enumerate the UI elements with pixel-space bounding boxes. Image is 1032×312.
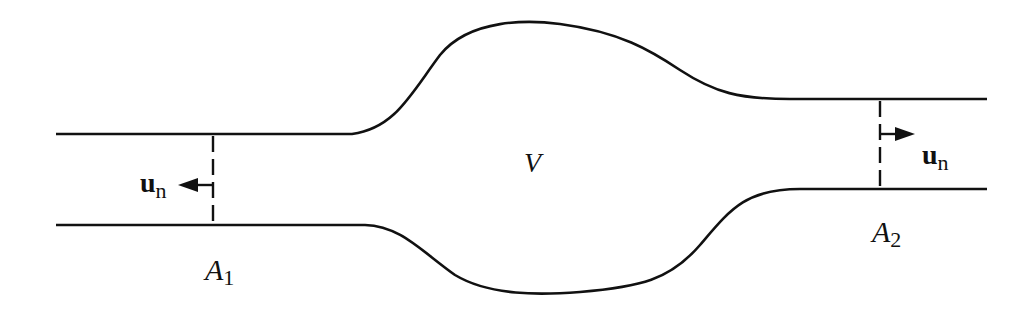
area-outlet-label: A2	[870, 215, 901, 252]
area-outlet-main: A	[870, 215, 891, 248]
lower-wall	[56, 189, 987, 294]
un-right-sub: n	[938, 150, 949, 175]
area-inlet-main: A	[203, 253, 224, 286]
un-left-sub: n	[156, 178, 167, 203]
arrow-right-icon	[880, 127, 915, 141]
un-left-main: u	[140, 167, 156, 198]
area-inlet-label: A1	[203, 253, 234, 290]
area-outlet-sub: 2	[890, 227, 901, 252]
un-right-label: un	[922, 139, 949, 175]
area-inlet-sub: 1	[223, 265, 234, 290]
arrow-left-icon	[178, 178, 213, 192]
upper-wall	[56, 22, 987, 134]
un-right-main: u	[922, 139, 938, 170]
control-volume-diagram: V un un A1 A2	[0, 0, 1032, 312]
volume-label: V	[524, 147, 544, 178]
un-left-label: un	[140, 167, 167, 203]
